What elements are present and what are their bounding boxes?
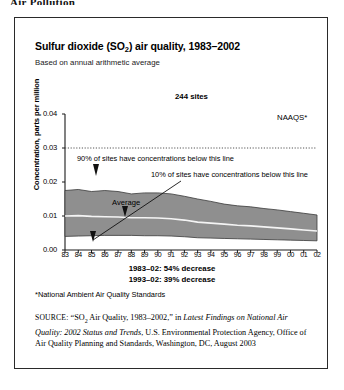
x-tick-label: 91: [164, 251, 178, 258]
x-tick-label: 93: [191, 251, 205, 258]
annotation-10-percent: 10% of sites have concentrations below t…: [151, 170, 308, 179]
y-tick-label: 0.02: [31, 177, 57, 186]
cropped-page-heading: Air Pollution: [10, 0, 75, 5]
x-tick-label: 99: [270, 251, 284, 258]
x-tick-label: 97: [244, 251, 258, 258]
source-text-part1: “SO: [71, 313, 85, 322]
annotation-arrow-90: [93, 164, 99, 176]
source-label: SOURCE:: [35, 313, 68, 322]
figure-source: SOURCE: “SO2 Air Quality, 1983–2002,” in…: [35, 312, 313, 349]
y-tick-label: 0.04: [31, 109, 57, 118]
x-tick-label: 94: [204, 251, 218, 258]
naaqs-label: NAAQS*: [277, 113, 307, 122]
annotation-average: Average: [112, 198, 140, 207]
decrease-stat-1983: 1983–02: 54% decrease: [15, 264, 329, 273]
sites-count-label: 244 sites: [175, 92, 208, 101]
x-tick-label: 86: [98, 251, 112, 258]
y-tick-label: 0.01: [31, 211, 57, 220]
x-tick-label: 01: [297, 251, 311, 258]
x-tick-label: 95: [217, 251, 231, 258]
x-tick-label: 92: [177, 251, 191, 258]
x-tick-label: 02: [310, 251, 324, 258]
x-tick-label: 87: [111, 251, 125, 258]
x-tick-label: 89: [138, 251, 152, 258]
source-text-part2: Air Quality, 1983–2002,” in: [88, 313, 184, 322]
x-tick-label: 96: [230, 251, 244, 258]
decrease-stat-1993: 1993–02: 39% decrease: [15, 275, 329, 284]
x-tick-label: 00: [283, 251, 297, 258]
annotation-90-percent: 90% of sites have concentrations below t…: [77, 154, 234, 163]
y-tick-label: 0.03: [31, 143, 57, 152]
x-tick-label: 83: [58, 251, 72, 258]
figure-container: Sulfur dioxide (SO2) air quality, 1983–2…: [14, 17, 328, 369]
y-tick-label: 0.00: [31, 245, 57, 254]
x-tick-label: 88: [124, 251, 138, 258]
figure-footnote: *National Ambient Air Quality Standards: [35, 290, 165, 299]
x-tick-label: 90: [151, 251, 165, 258]
x-tick-label: 85: [85, 251, 99, 258]
x-tick-label: 84: [71, 251, 85, 258]
x-tick-label: 98: [257, 251, 271, 258]
